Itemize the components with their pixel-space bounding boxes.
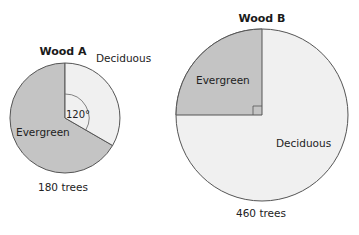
wood-a-deciduous-label: Deciduous — [96, 52, 151, 64]
wood-a-total-label: 180 trees — [38, 181, 88, 193]
wood-b-chart: Wood B Evergreen Deciduous 460 trees — [176, 12, 348, 219]
wood-b-total-label: 460 trees — [236, 207, 286, 219]
wood-b-evergreen-slice — [176, 29, 262, 115]
wood-a-chart: Wood A 120° Deciduous Evergreen 180 tree… — [10, 45, 151, 193]
pie-charts: Wood A 120° Deciduous Evergreen 180 tree… — [0, 0, 359, 235]
wood-b-deciduous-label: Deciduous — [276, 137, 331, 149]
wood-b-title: Wood B — [239, 12, 286, 25]
wood-a-angle-label: 120° — [66, 109, 90, 120]
wood-a-title: Wood A — [39, 45, 87, 58]
wood-a-evergreen-label: Evergreen — [16, 126, 70, 138]
wood-b-evergreen-label: Evergreen — [196, 74, 250, 86]
